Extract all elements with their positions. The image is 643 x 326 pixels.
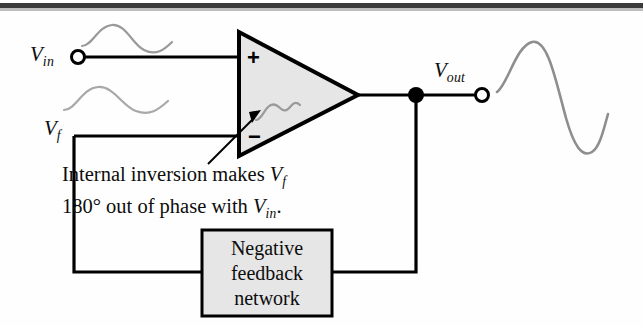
vout-waveform — [497, 42, 608, 154]
annotation-line-2-text: 180° out of phase with — [62, 195, 253, 217]
vout-terminal-node — [476, 89, 489, 102]
annotation-vin-symbol: V — [253, 195, 266, 217]
annotation-line-1: Internal inversion makes Vf — [62, 162, 286, 194]
vin-label: Vin — [30, 44, 54, 69]
noninverting-input-plus-sign: + — [247, 45, 260, 71]
output-feedback-wire-right — [331, 95, 416, 272]
vout-label: Vout — [434, 60, 465, 85]
feedback-block-line-2: feedback — [202, 261, 332, 286]
vf-subscript: f — [57, 128, 61, 143]
annotation-period: . — [276, 195, 281, 217]
internal-inversion-annotation: Internal inversion makes Vf 180° out of … — [62, 162, 286, 226]
feedback-block-line-1: Negative — [202, 236, 332, 261]
vin-subscript: in — [43, 54, 54, 69]
vin-waveform — [82, 25, 172, 52]
vf-waveform — [64, 87, 168, 113]
vin-symbol: V — [30, 42, 43, 66]
vout-symbol: V — [434, 58, 447, 82]
figure-canvas: Vin Vf Vout + − Internal inversion makes… — [0, 0, 643, 326]
vf-symbol: V — [44, 116, 57, 140]
vf-label: Vf — [44, 118, 61, 143]
annotation-line-1-text: Internal inversion makes — [62, 163, 270, 185]
annotation-vf-subscript: f — [282, 174, 286, 189]
annotation-vin-subscript: in — [266, 206, 277, 221]
feedback-block-line-3: network — [202, 286, 332, 311]
negative-feedback-block-label: Negative feedback network — [202, 236, 332, 311]
annotation-vf-symbol: V — [270, 163, 283, 185]
vout-subscript: out — [447, 70, 465, 85]
inverting-input-minus-sign: − — [248, 124, 261, 150]
page-edge-band — [0, 3, 643, 8]
page-edge-band-light — [0, 8, 643, 11]
vin-terminal-node — [72, 51, 85, 64]
annotation-line-2: 180° out of phase with Vin. — [62, 194, 286, 226]
